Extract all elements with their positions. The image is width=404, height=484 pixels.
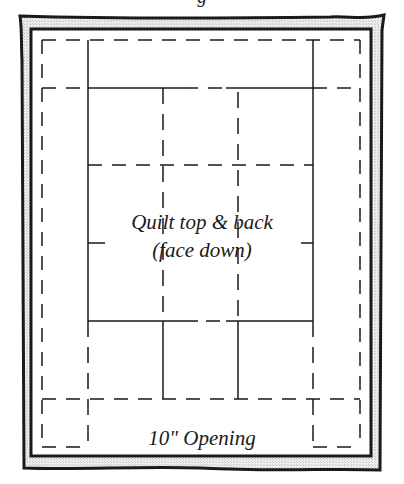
center-label-line2: (face down) [100,238,304,263]
caption-fragment: g [150,0,254,8]
center-label-line1: Quilt top & back [100,210,304,235]
opening-label: 10" Opening [120,426,284,451]
